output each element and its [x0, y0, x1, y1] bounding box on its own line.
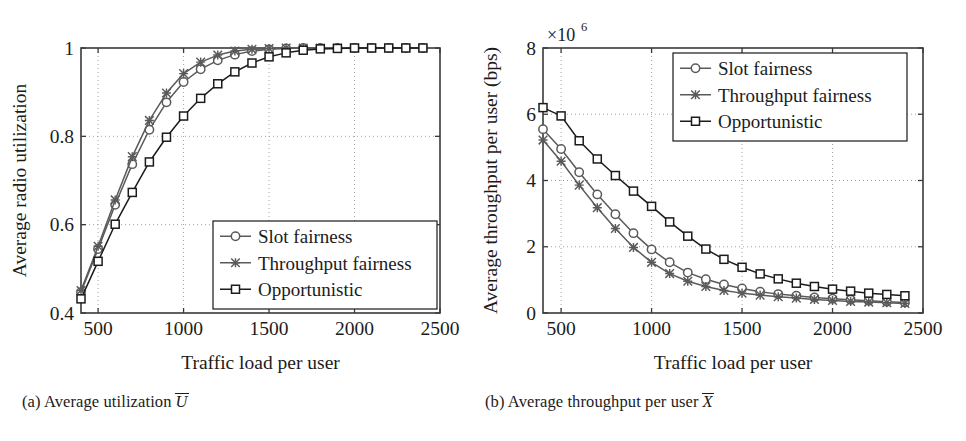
marker-circle: [691, 64, 699, 72]
caption-a-symbol: U: [175, 393, 189, 411]
legend-label: Throughput fairness: [258, 253, 412, 274]
marker-square: [248, 59, 256, 67]
marker-square: [611, 172, 619, 180]
y-tick-label: 0.8: [50, 126, 74, 147]
y-axis-exponent: ×106: [547, 20, 587, 45]
marker-cross: [665, 269, 674, 278]
marker-cross: [196, 58, 205, 67]
y-tick-label: 6: [526, 104, 536, 125]
x-tick-label: 1000: [632, 318, 671, 339]
marker-square: [593, 155, 601, 163]
x-tick-label: 2500: [421, 318, 460, 339]
marker-cross: [265, 44, 274, 53]
x-axis-label: Traffic load per user: [181, 352, 340, 373]
marker-square: [180, 112, 188, 120]
marker-cross: [230, 47, 239, 56]
marker-square: [901, 292, 909, 300]
marker-square: [402, 44, 410, 52]
x-axis-label: Traffic load per user: [654, 352, 813, 373]
marker-cross: [810, 295, 819, 304]
marker-square: [810, 283, 818, 291]
marker-cross: [882, 298, 891, 307]
marker-square: [232, 285, 240, 293]
marker-circle: [539, 125, 547, 133]
marker-square: [692, 117, 700, 125]
marker-square: [111, 220, 119, 228]
y-tick-labels: 0.40.60.81: [50, 38, 75, 324]
marker-cross: [701, 282, 710, 291]
marker-square: [94, 257, 102, 265]
subfigure-b: 500100015002000250002468Traffic load per…: [483, 0, 966, 441]
y-axis-label: Average radio utilization: [9, 84, 30, 278]
marker-square: [539, 104, 547, 112]
marker-square: [720, 255, 728, 263]
marker-circle: [684, 268, 692, 276]
marker-square: [333, 44, 341, 52]
marker-cross: [593, 203, 602, 212]
marker-cross: [94, 242, 103, 251]
marker-cross: [247, 45, 256, 54]
marker-circle: [629, 229, 637, 237]
marker-square: [419, 44, 427, 52]
marker-circle: [665, 258, 673, 266]
x-tick-label: 1500: [723, 318, 762, 339]
marker-square: [847, 287, 855, 295]
marker-square: [351, 44, 359, 52]
marker-circle: [557, 145, 565, 153]
legend: Slot fairnessThroughput fairnessOpportun…: [673, 53, 907, 141]
legend-label: Slot fairness: [258, 226, 352, 247]
y-tick-label: 0.6: [50, 214, 75, 235]
series-line: [543, 140, 905, 303]
x-tick-label: 2500: [904, 318, 943, 339]
marker-square: [145, 158, 153, 166]
marker-square: [128, 188, 136, 196]
marker-circle: [611, 210, 619, 218]
marker-square: [316, 45, 324, 53]
marker-square: [299, 46, 307, 54]
marker-cross: [864, 298, 873, 307]
marker-square: [265, 53, 273, 61]
marker-square: [702, 245, 710, 253]
marker-square: [648, 202, 656, 210]
marker-cross: [828, 296, 837, 305]
caption-b-symbol: X: [702, 393, 714, 411]
marker-cross: [691, 90, 700, 99]
caption-a-text: (a) Average utilization: [22, 392, 172, 411]
caption-b: (b) Average throughput per userX: [483, 392, 966, 412]
figure-root: 50010001500200025000.40.60.81Traffic loa…: [0, 0, 966, 441]
marker-cross: [128, 152, 137, 161]
marker-circle: [162, 98, 170, 106]
x-tick-label: 2000: [813, 318, 852, 339]
marker-square: [629, 187, 637, 195]
marker-square: [684, 232, 692, 240]
marker-circle: [647, 245, 655, 253]
legend: Slot fairnessThroughput fairnessOpportun…: [213, 221, 437, 309]
marker-circle: [575, 168, 583, 176]
y-tick-label: 1: [64, 38, 74, 59]
marker-square: [214, 80, 222, 88]
plot-b: 500100015002000250002468Traffic load per…: [483, 0, 966, 390]
marker-cross: [611, 224, 620, 233]
marker-cross: [719, 286, 728, 295]
exponent-base: ×10: [547, 25, 575, 45]
y-tick-label: 0: [526, 303, 536, 324]
marker-cross: [738, 289, 747, 298]
marker-cross: [647, 258, 656, 267]
marker-square: [368, 44, 376, 52]
marker-square: [162, 133, 170, 141]
x-tick-label: 1000: [164, 318, 203, 339]
marker-square: [282, 49, 290, 57]
marker-cross: [538, 136, 547, 145]
caption-b-text: (b) Average throughput per user: [485, 392, 699, 411]
x-tick-label: 500: [546, 318, 575, 339]
marker-cross: [575, 181, 584, 190]
marker-square: [77, 295, 85, 303]
legend-label: Opportunistic: [718, 111, 823, 132]
marker-cross: [774, 292, 783, 301]
x-tick-labels: 5001000150020002500: [83, 318, 459, 339]
y-tick-label: 8: [526, 38, 536, 59]
marker-circle: [231, 232, 239, 240]
marker-cross: [629, 243, 638, 252]
marker-cross: [683, 277, 692, 286]
marker-square: [197, 94, 205, 102]
